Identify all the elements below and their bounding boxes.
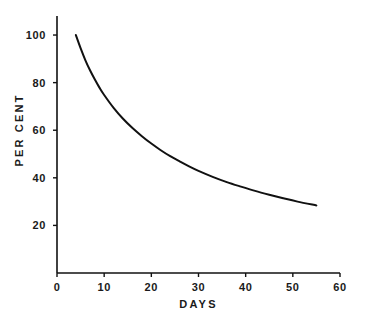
chart-figure: 20406080100 0102030405060 PER CENT DAYS — [0, 0, 380, 315]
x-tick-label: 40 — [239, 282, 252, 293]
y-tick-label: 80 — [0, 77, 46, 88]
y-tick-label: 100 — [0, 30, 46, 41]
y-tick-label: 40 — [0, 172, 46, 183]
x-axis-title: DAYS — [179, 299, 217, 310]
y-axis-title: PER CENT — [14, 94, 25, 167]
data-series-line — [76, 35, 317, 205]
axis-lines — [57, 16, 340, 273]
y-tick-label: 20 — [0, 220, 46, 231]
x-tick-label: 10 — [97, 282, 110, 293]
plot-area — [0, 0, 380, 315]
x-tick-label: 20 — [145, 282, 158, 293]
x-tick-label: 60 — [333, 282, 346, 293]
x-tick-label: 30 — [192, 282, 205, 293]
x-tick-label: 0 — [54, 282, 61, 293]
x-tick-label: 50 — [286, 282, 299, 293]
